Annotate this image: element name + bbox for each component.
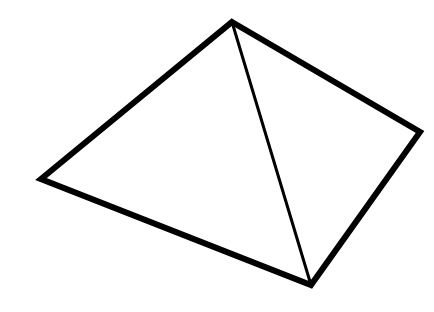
pyramid-outline [41,22,420,285]
diagram-canvas: Pyramid line drawing [0,0,434,312]
pyramid-diagram [0,0,434,312]
